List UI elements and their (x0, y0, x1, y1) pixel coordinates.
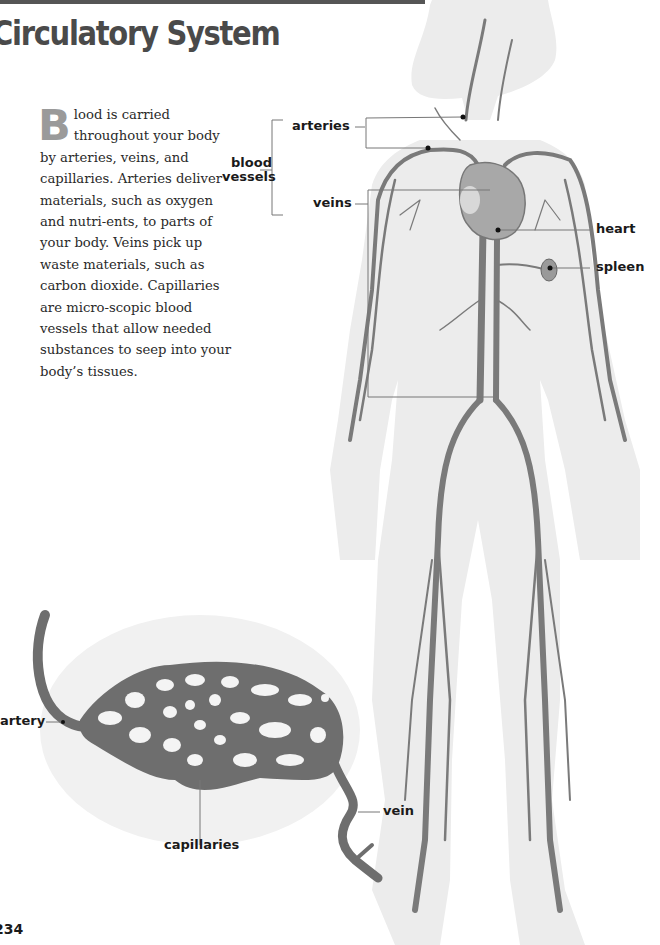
body-silhouette (330, 0, 640, 945)
label-arteries: arteries (292, 118, 350, 133)
label-artery: artery (0, 713, 45, 728)
label-capillaries: capillaries (164, 837, 239, 852)
label-heart: heart (596, 221, 635, 236)
heart-illustration (460, 163, 526, 240)
page-number: 234 (0, 921, 23, 937)
label-blood-vessels: blood vessels (222, 156, 272, 184)
circulatory-illustration (0, 0, 660, 945)
label-spleen: spleen (596, 259, 644, 274)
label-vein: vein (383, 803, 414, 818)
label-veins: veins (313, 195, 352, 210)
